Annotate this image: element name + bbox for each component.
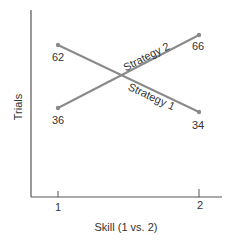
x-axis-title: Skill (1 vs. 2) (95, 221, 158, 233)
point-strategy-1-skill-1 (56, 43, 60, 47)
point-strategy-2-skill-1 (56, 106, 60, 110)
value-label-s1-start: 62 (52, 51, 64, 63)
x-tick-label-1: 1 (55, 201, 61, 213)
x-tick-label-2: 2 (197, 199, 203, 211)
point-strategy-2-skill-2 (197, 33, 201, 37)
value-label-s2-end: 66 (192, 40, 204, 52)
value-label-s2-start: 36 (52, 114, 64, 126)
series-label-strategy-2: Strategy 2 (121, 40, 171, 73)
y-axis-title: Trials (12, 93, 24, 120)
chart: 1 2 62 36 66 34 Strategy 2 Strategy 1 Tr… (0, 0, 233, 244)
series-strategy-1 (58, 45, 199, 112)
series-label-strategy-1: Strategy 1 (126, 80, 177, 112)
point-strategy-1-skill-2 (197, 110, 201, 114)
value-label-s1-end: 34 (192, 119, 204, 131)
